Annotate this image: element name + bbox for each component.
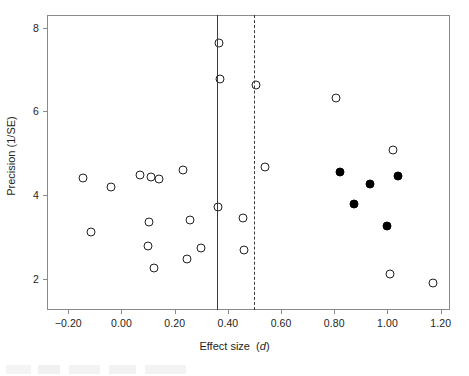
data-point-filled <box>383 222 392 231</box>
data-point-open <box>388 145 397 154</box>
data-point-open <box>144 241 153 250</box>
x-tick-label: 0.60 <box>271 317 292 329</box>
data-point-open <box>239 246 248 255</box>
data-point-filled <box>366 179 375 188</box>
data-point-open <box>251 81 260 90</box>
data-point-filled <box>350 200 359 209</box>
y-tick-label: 8 <box>21 22 39 34</box>
x-tick-label: 0.20 <box>164 317 185 329</box>
y-axis-label: Precision (1/SE) <box>5 91 17 221</box>
x-tick-label: 1.00 <box>377 317 398 329</box>
x-tick-label: 0.40 <box>217 317 238 329</box>
observed-mean-line <box>217 15 218 310</box>
data-point-filled <box>394 171 403 180</box>
funnel-plot-figure: −0.200.000.200.400.600.801.001.20 2468 E… <box>0 0 469 376</box>
data-point-open <box>145 217 154 226</box>
data-point-open <box>78 174 87 183</box>
x-tick-mark <box>441 310 442 314</box>
x-tick-label: 1.20 <box>430 317 451 329</box>
y-tick-label: 2 <box>21 273 39 285</box>
x-tick-mark <box>387 310 388 314</box>
data-point-open <box>178 166 187 175</box>
x-axis-label: Effect size (d) <box>0 340 469 352</box>
data-point-open <box>136 170 145 179</box>
adjusted-mean-line <box>254 15 255 310</box>
data-point-open <box>106 182 115 191</box>
x-tick-label: 0.80 <box>324 317 345 329</box>
data-point-open <box>86 228 95 237</box>
x-tick-mark <box>228 310 229 314</box>
data-point-open <box>261 163 270 172</box>
data-point-open <box>238 214 247 223</box>
data-point-open <box>186 216 195 225</box>
data-point-open <box>428 279 437 288</box>
data-point-open <box>154 175 163 184</box>
x-axis-label-text: Effect size <box>199 340 250 352</box>
y-tick-mark <box>43 195 47 196</box>
x-tick-mark <box>281 310 282 314</box>
x-tick-mark <box>334 310 335 314</box>
y-tick-mark <box>43 279 47 280</box>
plot-frame <box>47 15 450 310</box>
x-tick-mark <box>121 310 122 314</box>
x-tick-mark <box>68 310 69 314</box>
y-tick-mark <box>43 28 47 29</box>
x-tick-label: −0.20 <box>55 317 82 329</box>
data-point-open <box>197 243 206 252</box>
y-tick-mark <box>43 111 47 112</box>
x-tick-mark <box>175 310 176 314</box>
data-point-open <box>183 254 192 263</box>
data-point-open <box>149 264 158 273</box>
data-point-open <box>214 39 223 48</box>
data-point-open <box>386 269 395 278</box>
y-tick-label: 4 <box>21 189 39 201</box>
page-artifact-smudge <box>6 365 186 374</box>
y-tick-label: 6 <box>21 105 39 117</box>
figure-canvas: −0.200.000.200.400.600.801.001.20 2468 E… <box>0 0 469 376</box>
data-point-open <box>331 93 340 102</box>
data-point-filled <box>335 167 344 176</box>
x-tick-label: 0.00 <box>111 317 132 329</box>
